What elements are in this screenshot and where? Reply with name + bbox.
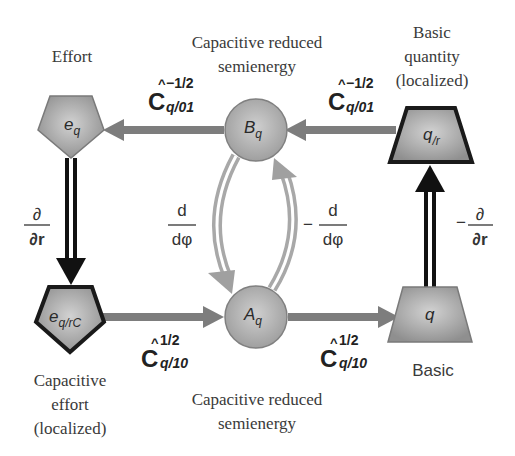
svg-text:Capacitive reduced: Capacitive reduced — [192, 390, 323, 409]
caption-basic: Basic — [412, 361, 454, 380]
operator-top-right: ^ C −1/2 q/01 — [328, 75, 374, 115]
svg-text:(localized): (localized) — [34, 419, 107, 438]
semienergy-diagram: Effort Capacitive reduced semienergy Bas… — [0, 0, 515, 456]
svg-text:−1/2: −1/2 — [166, 75, 194, 91]
arrow-b-to-a-curved — [208, 156, 236, 294]
caption-effort: Effort — [52, 47, 93, 66]
arrow-basic-localized-to-b — [285, 119, 396, 141]
node-basic: q — [388, 287, 472, 342]
svg-text:1/2: 1/2 — [339, 332, 359, 348]
svg-text:Basic: Basic — [413, 23, 451, 42]
svg-text:C: C — [148, 88, 165, 115]
svg-text:∂r: ∂r — [472, 230, 487, 249]
node-basic-localized: q/r — [390, 108, 472, 162]
svg-text:q/01: q/01 — [346, 99, 374, 115]
svg-text:Capacitive reduced: Capacitive reduced — [192, 33, 323, 52]
node-b: Bq — [225, 99, 287, 161]
operator-bottom-right: ^ C 1/2 q/10 — [320, 332, 367, 372]
node-a: Aq — [225, 286, 287, 348]
node-effort: eq — [38, 96, 104, 158]
arrow-effort-to-capacitive-effort — [56, 158, 86, 285]
svg-text:q/10: q/10 — [339, 355, 367, 371]
arrow-basic-to-basic-localized — [415, 165, 445, 288]
svg-text:∂r: ∂r — [29, 230, 44, 249]
svg-text:C: C — [320, 345, 337, 372]
svg-text:C: C — [141, 345, 158, 372]
svg-text:∂: ∂ — [476, 205, 484, 224]
svg-text:d: d — [328, 201, 337, 220]
svg-text:dφ: dφ — [172, 230, 192, 249]
svg-text:Basic: Basic — [412, 361, 454, 380]
svg-text:C: C — [328, 88, 345, 115]
operator-left-derivative: ∂ ∂r — [24, 205, 50, 249]
svg-text:q/01: q/01 — [166, 99, 194, 115]
svg-text:semienergy: semienergy — [218, 57, 297, 76]
arrow-a-to-b-curved — [272, 158, 297, 289]
operator-top-left: ^ C −1/2 q/01 — [148, 75, 194, 115]
svg-text:quantity: quantity — [404, 47, 460, 66]
operator-phi-down: d dφ — [168, 201, 196, 249]
operator-bottom-left: ^ C 1/2 q/10 — [141, 332, 188, 372]
svg-text:semienergy: semienergy — [218, 414, 297, 433]
svg-text:Effort: Effort — [52, 47, 93, 66]
svg-text:−1/2: −1/2 — [346, 75, 374, 91]
svg-text:1/2: 1/2 — [160, 332, 180, 348]
svg-text:(localized): (localized) — [396, 71, 469, 90]
svg-text:dφ: dφ — [323, 230, 343, 249]
arrow-capacitive-effort-to-a — [100, 306, 224, 328]
svg-text:−: − — [303, 215, 313, 234]
caption-top-semienergy: Capacitive reduced semienergy — [192, 33, 323, 76]
caption-bottom-semienergy: Capacitive reduced semienergy — [192, 390, 323, 433]
svg-text:q: q — [425, 305, 435, 324]
operator-right-derivative: − ∂ ∂r — [456, 205, 493, 249]
operator-phi-up: − d dφ — [303, 201, 347, 249]
arrow-a-to-basic — [288, 306, 399, 328]
svg-text:effort: effort — [51, 395, 89, 414]
svg-text:−: − — [456, 213, 466, 232]
svg-text:q/10: q/10 — [160, 355, 188, 371]
svg-text:d: d — [177, 201, 186, 220]
caption-basic-quantity-localized: Basic quantity (localized) — [396, 23, 469, 90]
svg-text:Capacitive: Capacitive — [34, 371, 107, 390]
node-capacitive-effort: eq/rC — [36, 287, 104, 352]
arrow-b-to-effort — [103, 119, 224, 141]
caption-capacitive-effort: Capacitive effort (localized) — [34, 371, 107, 438]
svg-text:∂: ∂ — [33, 205, 41, 224]
